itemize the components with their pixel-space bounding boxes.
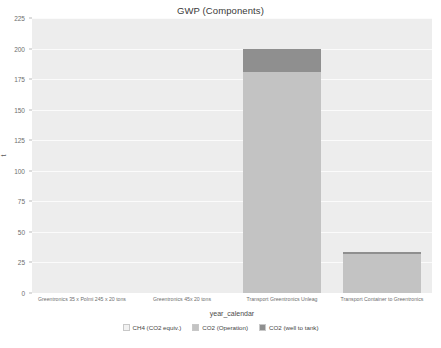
legend-swatch bbox=[259, 324, 266, 331]
legend-item[interactable]: CO2 (well to tank) bbox=[259, 324, 319, 331]
y-axis-tick-label: 0 bbox=[21, 290, 25, 297]
y-axis-tick-label: 125 bbox=[14, 137, 25, 144]
x-axis-tick-label: Greentronics 45x 20 tons bbox=[153, 296, 211, 302]
bar-segment[interactable] bbox=[243, 72, 321, 293]
plot-area bbox=[32, 18, 432, 293]
bar-group[interactable] bbox=[243, 18, 321, 293]
y-axis-tick-label: 150 bbox=[14, 106, 25, 113]
y-axis: 0255075100125150175200225 bbox=[0, 18, 32, 293]
legend-item[interactable]: CH4 (CO2 equiv.) bbox=[123, 324, 182, 331]
legend-label: CO2 (Operation) bbox=[202, 324, 248, 331]
bar-group[interactable] bbox=[143, 18, 221, 293]
x-axis: Greentronics 35 x Polmi 245 x 20 tonsGre… bbox=[32, 296, 432, 310]
legend-swatch bbox=[123, 324, 130, 331]
bar-group[interactable] bbox=[343, 18, 421, 293]
legend-item[interactable]: CO2 (Operation) bbox=[192, 324, 248, 331]
y-axis-tick-label: 25 bbox=[18, 259, 25, 266]
x-axis-tick-label: Transport Greentronics Unleag bbox=[246, 296, 317, 302]
y-axis-tick-label: 175 bbox=[14, 76, 25, 83]
x-axis-title: year_calendar bbox=[32, 310, 432, 317]
legend-label: CH4 (CO2 equiv.) bbox=[133, 324, 182, 331]
y-axis-tick-label: 50 bbox=[18, 228, 25, 235]
bar-segment[interactable] bbox=[243, 49, 321, 72]
bar-segment[interactable] bbox=[343, 254, 421, 293]
legend-label: CO2 (well to tank) bbox=[269, 324, 319, 331]
chart-title: GWP (Components) bbox=[0, 5, 441, 16]
y-axis-tick-label: 75 bbox=[18, 198, 25, 205]
legend-swatch bbox=[192, 324, 199, 331]
bar-segment[interactable] bbox=[343, 252, 421, 254]
chart-container: GWP (Components) t 025507510012515017520… bbox=[0, 0, 441, 348]
x-axis-tick-label: Transport Container to Greentronics bbox=[341, 296, 424, 302]
x-axis-tick-label: Greentronics 35 x Polmi 245 x 20 tons bbox=[38, 296, 126, 302]
y-axis-tick-label: 225 bbox=[14, 15, 25, 22]
chart-legend: CH4 (CO2 equiv.)CO2 (Operation)CO2 (well… bbox=[0, 324, 441, 331]
y-axis-tick-label: 100 bbox=[14, 167, 25, 174]
bar-group[interactable] bbox=[43, 18, 121, 293]
y-axis-tick-label: 200 bbox=[14, 45, 25, 52]
